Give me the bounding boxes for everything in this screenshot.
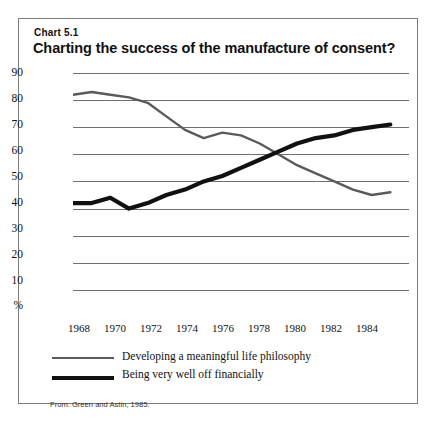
chart-svg [73, 73, 409, 317]
x-axis-label-1980: 1980 [275, 322, 315, 334]
y-axis-label-80: 80 [0, 93, 23, 105]
y-axis-label-percent: % [0, 300, 23, 312]
x-axis-label-1978: 1978 [239, 322, 279, 334]
source-note: From: Green and Astin, 1985. [50, 400, 150, 409]
y-axis-label-60: 60 [0, 145, 23, 157]
x-axis-label-1968: 1968 [59, 322, 99, 334]
y-axis-label-90: 90 [0, 67, 23, 79]
page-title: Charting the success of the manufacture … [33, 40, 395, 56]
y-axis-label-30: 30 [0, 223, 23, 235]
y-axis-label-40: 40 [0, 197, 23, 209]
y-axis-label-70: 70 [0, 119, 23, 131]
x-axis-label-1972: 1972 [131, 322, 171, 334]
legend-swatch-financial [52, 376, 114, 380]
x-axis-label-1976: 1976 [203, 322, 243, 334]
x-axis-label-1974: 1974 [167, 322, 207, 334]
y-axis-label-50: 50 [0, 171, 23, 183]
x-axis-label-1982: 1982 [311, 322, 351, 334]
legend-label-philosophy: Developing a meaningful life philosophy [122, 350, 311, 362]
x-axis-label-1970: 1970 [95, 322, 135, 334]
chart-frame: Chart 5.1 Charting the success of the ma… [18, 18, 418, 404]
legend-label-financial: Being very well off financially [122, 368, 264, 380]
y-axis-label-10: 10 [0, 275, 23, 287]
chart-number: Chart 5.1 [34, 27, 79, 38]
series-line-philosophy [73, 92, 390, 195]
legend-swatch-philosophy [52, 357, 114, 359]
series-line-financial [73, 125, 390, 209]
y-axis-label-20: 20 [0, 249, 23, 261]
gridlines [73, 74, 409, 318]
plot-area [73, 73, 409, 317]
x-axis-label-1984: 1984 [347, 322, 387, 334]
